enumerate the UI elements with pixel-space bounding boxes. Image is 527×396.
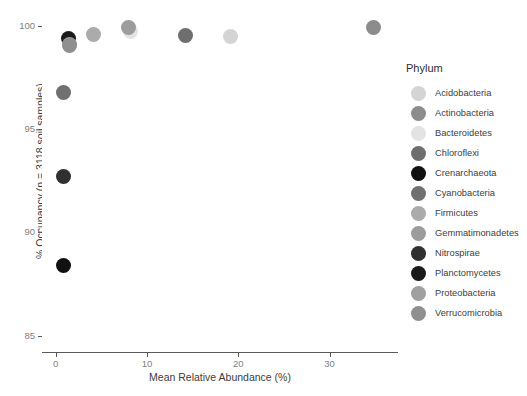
legend-swatch-icon xyxy=(411,146,426,161)
legend-swatch-icon xyxy=(411,126,426,141)
legend-swatch-icon xyxy=(411,246,426,261)
legend-swatch-icon xyxy=(411,306,426,321)
y-tick-label: 100 xyxy=(0,20,35,31)
y-tick-label: 85 xyxy=(0,330,35,341)
legend-item: Verrucomicrobia xyxy=(404,303,527,323)
legend-item-label: Actinobacteria xyxy=(435,108,494,118)
legend-swatch-icon xyxy=(411,266,426,281)
scatter-point xyxy=(62,38,77,53)
legend-item: Planctomycetes xyxy=(404,263,527,283)
scatter-point xyxy=(56,85,71,100)
scatter-point xyxy=(223,29,238,44)
scatter-point xyxy=(121,20,136,35)
legend-items: AcidobacteriaActinobacteriaBacteroidetes… xyxy=(404,83,527,323)
legend-item-label: Firmicutes xyxy=(435,208,478,218)
x-tick-mark xyxy=(147,353,148,357)
legend-swatch-icon xyxy=(411,226,426,241)
y-tick-label: 95 xyxy=(0,123,35,134)
x-tick-mark xyxy=(56,353,57,357)
legend-item: Actinobacteria xyxy=(404,103,527,123)
legend-item: Gemmatimonadetes xyxy=(404,223,527,243)
legend-swatch-icon xyxy=(411,206,426,221)
legend-item: Chloroflexi xyxy=(404,143,527,163)
scatter-point xyxy=(86,27,101,42)
x-tick-label: 0 xyxy=(36,358,76,369)
x-tick-mark xyxy=(330,353,331,357)
plot-panel xyxy=(42,14,398,352)
legend-item: Proteobacteria xyxy=(404,283,527,303)
legend-item: Nitrospirae xyxy=(404,243,527,263)
legend-item: Firmicutes xyxy=(404,203,527,223)
legend-swatch-icon xyxy=(411,186,426,201)
legend-item: Acidobacteria xyxy=(404,83,527,103)
legend-item-label: Crenarchaeota xyxy=(435,168,497,178)
legend-item-label: Bacteroidetes xyxy=(435,128,492,138)
legend-swatch-icon xyxy=(411,166,426,181)
x-tick-mark xyxy=(238,353,239,357)
legend-item: Cyanobacteria xyxy=(404,183,527,203)
scatter-point xyxy=(366,20,381,35)
x-axis-title: Mean Relative Abundance (%) xyxy=(42,371,398,383)
scatter-plot-figure: % Occupancy (n = 3118 soil samples) Mean… xyxy=(0,0,527,396)
legend: Phylum AcidobacteriaActinobacteriaBacter… xyxy=(404,62,527,323)
legend-swatch-icon xyxy=(411,106,426,121)
legend-item-label: Chloroflexi xyxy=(435,148,479,158)
legend-item-label: Nitrospirae xyxy=(435,248,480,258)
scatter-point xyxy=(178,28,193,43)
legend-item: Crenarchaeota xyxy=(404,163,527,183)
legend-swatch-icon xyxy=(411,286,426,301)
legend-item-label: Proteobacteria xyxy=(435,288,495,298)
scatter-point xyxy=(56,258,71,273)
legend-title: Phylum xyxy=(406,62,527,74)
scatter-point xyxy=(56,169,71,184)
legend-item-label: Cyanobacteria xyxy=(435,188,495,198)
x-tick-label: 20 xyxy=(218,358,258,369)
legend-item-label: Planctomycetes xyxy=(435,268,501,278)
legend-swatch-icon xyxy=(411,86,426,101)
x-tick-label: 10 xyxy=(127,358,167,369)
legend-item-label: Gemmatimonadetes xyxy=(435,228,519,238)
legend-item-label: Verrucomicrobia xyxy=(435,308,502,318)
x-axis-line xyxy=(42,352,398,353)
x-tick-label: 30 xyxy=(310,358,350,369)
y-tick-label: 90 xyxy=(0,226,35,237)
legend-item-label: Acidobacteria xyxy=(435,88,491,98)
legend-item: Bacteroidetes xyxy=(404,123,527,143)
